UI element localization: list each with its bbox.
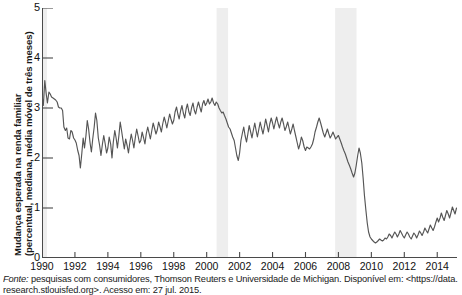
- recession-2001-band: [217, 8, 229, 258]
- caption-line-1: pesquisas com consumidores, Thomson Reut…: [28, 274, 457, 284]
- y-axis-tick-labels: 012345: [20, 0, 40, 262]
- y-tick-label: 2: [26, 152, 40, 163]
- recession-2008-band: [335, 8, 356, 258]
- y-tick-label: 5: [26, 2, 40, 13]
- chart-figure: Mudança esperada na renda familiar (perc…: [0, 0, 462, 295]
- caption-source-word: Fonte:: [3, 274, 28, 284]
- plot-area: [42, 8, 457, 258]
- line-chart-svg: [42, 8, 457, 258]
- x-tick-label: 2014: [417, 260, 457, 273]
- y-tick-label: 4: [26, 52, 40, 63]
- caption-line-2: research.stlouisfed.org>. Acesso em: 27 …: [3, 285, 462, 295]
- figure-caption: Fonte: pesquisas com consumidores, Thoms…: [3, 274, 462, 295]
- y-tick-label: 1: [26, 202, 40, 213]
- y-tick-label: 3: [26, 102, 40, 113]
- data-line-series: [42, 81, 457, 244]
